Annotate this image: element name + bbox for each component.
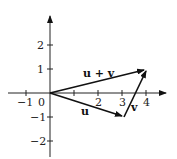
- vector-u-plus-v-label: u + v: [83, 67, 115, 80]
- y-tick-label: −2: [30, 135, 46, 148]
- y-tick-label: 1: [37, 63, 44, 76]
- y-tick-label: 2: [37, 39, 44, 52]
- vector-v-label: v: [130, 101, 138, 114]
- vector-u-label: u: [81, 105, 89, 118]
- origin-label: 0: [38, 96, 45, 109]
- vector-diagram: −1 2 3 4 0 2 1 −1 −2 u v u + v: [0, 0, 177, 159]
- x-tick-label: 3: [119, 96, 126, 109]
- y-tick-label: −1: [30, 111, 46, 124]
- x-tick-label: −1: [17, 96, 33, 109]
- x-tick-label: 4: [143, 96, 150, 109]
